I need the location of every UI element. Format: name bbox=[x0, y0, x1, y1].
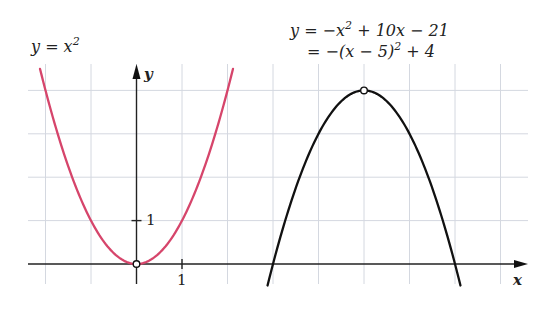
axes bbox=[28, 64, 528, 284]
black-label2-b: + 4 bbox=[401, 42, 435, 61]
red-label-text: y = x bbox=[30, 37, 73, 56]
vertex-point-red bbox=[133, 261, 140, 268]
y-axis-label: y bbox=[143, 65, 154, 83]
x-axis-label: x bbox=[512, 271, 523, 289]
y-axis-arrow bbox=[133, 64, 141, 79]
black-label2-a: = −(x − 5) bbox=[307, 42, 394, 61]
grid bbox=[28, 64, 528, 284]
black-label1-b: + 10x − 21 bbox=[352, 21, 449, 40]
y-tick-label-1: 1 bbox=[146, 211, 156, 229]
black-curve-label-line1: y = −x2 + 10x − 21 bbox=[289, 19, 449, 40]
x-tick-label-1: 1 bbox=[177, 271, 187, 289]
black-curve-label-line2: = −(x − 5)2 + 4 bbox=[307, 40, 435, 61]
vertex-point-black bbox=[361, 87, 368, 94]
red-label-sup: 2 bbox=[72, 35, 80, 48]
parabola-diagram: y x 1 1 y = x2 y = −x2 + 10x − 21 = −(x … bbox=[0, 0, 537, 311]
black-label1-a: y = −x bbox=[289, 21, 345, 40]
black-label2-sup: 2 bbox=[393, 40, 401, 53]
red-curve-label: y = x2 bbox=[30, 35, 80, 56]
x-axis-arrow bbox=[514, 260, 528, 268]
black-label1-sup: 2 bbox=[344, 19, 352, 32]
